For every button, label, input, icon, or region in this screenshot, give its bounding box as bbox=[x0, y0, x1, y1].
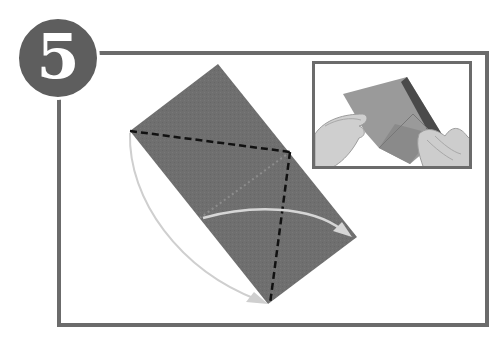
step-number: 5 bbox=[36, 26, 79, 88]
hands-folding-photo bbox=[315, 64, 472, 169]
photo-inset bbox=[312, 61, 472, 169]
step-number-badge: 5 bbox=[16, 16, 100, 100]
